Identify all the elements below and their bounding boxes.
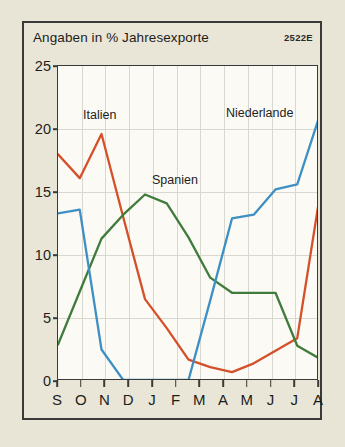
x-axis-tick-label: J bbox=[267, 391, 275, 408]
x-axis-tick-label: A bbox=[218, 391, 228, 408]
x-axis-tick-label: J bbox=[148, 391, 156, 408]
x-axis: SONDJFMAMJJA bbox=[57, 380, 318, 420]
y-axis-tick bbox=[53, 128, 58, 130]
x-axis-tick bbox=[104, 380, 106, 387]
x-axis-tick-label: M bbox=[241, 391, 254, 408]
chart-code-label: 2522E bbox=[284, 32, 313, 43]
x-axis-tick-label: F bbox=[171, 391, 180, 408]
x-axis-tick-label: A bbox=[313, 391, 323, 408]
x-axis-tick-label: O bbox=[75, 391, 87, 408]
page-title: Angaben in % Jahresexporte bbox=[33, 30, 209, 45]
series-label-italien: Italien bbox=[83, 108, 116, 122]
x-axis-tick bbox=[127, 380, 129, 387]
y-axis-tick-label: 5 bbox=[43, 310, 51, 326]
x-axis-tick bbox=[80, 380, 82, 387]
x-axis-tick-label: N bbox=[99, 391, 110, 408]
x-axis-tick bbox=[270, 380, 272, 387]
x-axis-tick-label: J bbox=[291, 391, 299, 408]
x-axis-tick bbox=[151, 380, 153, 387]
y-axis-tick-label: 15 bbox=[35, 184, 51, 200]
x-axis-tick bbox=[175, 380, 177, 387]
y-axis-tick bbox=[53, 254, 58, 256]
x-axis-tick-label: D bbox=[123, 391, 134, 408]
x-axis-tick bbox=[56, 380, 58, 387]
y-axis-tick bbox=[53, 191, 58, 193]
series-label-spanien: Spanien bbox=[152, 173, 198, 187]
y-axis-tick-label: 25 bbox=[35, 58, 51, 74]
x-axis-tick-label: M bbox=[193, 391, 206, 408]
x-axis-tick bbox=[222, 380, 224, 387]
y-axis-tick-label: 0 bbox=[43, 373, 51, 389]
chart-page: Angaben in % Jahresexporte 2522E 2520151… bbox=[0, 0, 345, 447]
x-axis-tick-label: S bbox=[52, 391, 62, 408]
y-axis-tick-label: 20 bbox=[35, 121, 51, 137]
y-axis-tick bbox=[53, 65, 58, 67]
x-axis-tick bbox=[293, 380, 295, 387]
x-axis-tick bbox=[317, 380, 319, 387]
x-axis-tick bbox=[246, 380, 248, 387]
y-axis-tick bbox=[53, 317, 58, 319]
y-axis-tick-label: 10 bbox=[35, 247, 51, 263]
series-line-italien bbox=[58, 134, 317, 372]
x-axis-tick bbox=[199, 380, 201, 387]
series-line-spanien bbox=[58, 195, 317, 359]
series-label-niederlande: Niederlande bbox=[226, 106, 293, 120]
